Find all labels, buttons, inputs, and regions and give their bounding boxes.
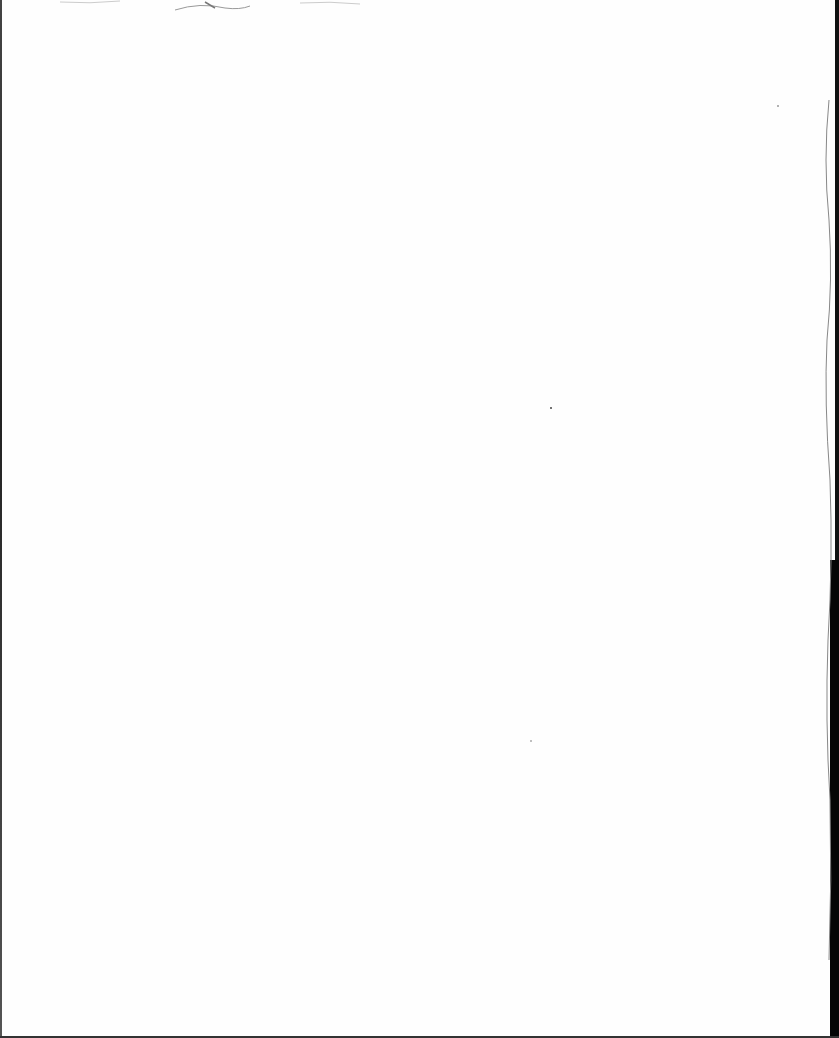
left-page-border bbox=[0, 0, 2, 1038]
dust-speck bbox=[530, 740, 532, 742]
top-pen-marks bbox=[0, 0, 420, 20]
dust-speck bbox=[550, 407, 552, 409]
torn-edge-line bbox=[821, 80, 835, 980]
dust-speck bbox=[777, 105, 779, 107]
right-page-border bbox=[835, 0, 839, 560]
blank-scanned-page bbox=[0, 0, 839, 1038]
